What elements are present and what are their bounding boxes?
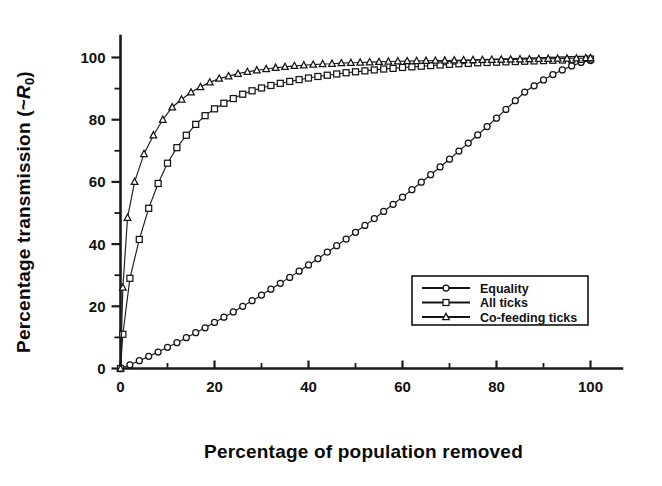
data-point-circle-marker bbox=[569, 63, 575, 69]
data-point-triangle-marker bbox=[329, 60, 336, 66]
data-point-circle-marker bbox=[400, 194, 406, 200]
data-point-circle-marker bbox=[353, 229, 359, 235]
data-point-triangle-marker bbox=[404, 57, 411, 63]
legend-label: Co-feeding ticks bbox=[480, 311, 577, 325]
data-point-triangle-marker bbox=[169, 104, 176, 110]
data-point-circle-marker bbox=[155, 349, 161, 355]
data-point-circle-marker bbox=[465, 140, 471, 146]
x-tick-label: 0 bbox=[116, 378, 124, 395]
data-point-triangle-marker bbox=[413, 57, 420, 63]
data-point-circle-marker bbox=[484, 124, 490, 130]
data-point-triangle-marker bbox=[587, 54, 594, 60]
y-tick-label: 80 bbox=[89, 111, 106, 128]
data-point-circle-marker bbox=[343, 236, 349, 242]
data-point-triangle-marker bbox=[124, 214, 131, 220]
data-point-triangle-marker bbox=[347, 59, 354, 65]
data-point-triangle-marker bbox=[263, 65, 270, 71]
data-point-triangle-marker bbox=[479, 56, 486, 62]
data-point-circle-marker bbox=[136, 358, 142, 364]
x-tick-label: 20 bbox=[206, 378, 223, 395]
data-point-square-marker bbox=[334, 71, 340, 77]
data-point-square-marker bbox=[136, 236, 142, 242]
data-point-circle-marker bbox=[127, 362, 133, 368]
data-point-square-marker bbox=[240, 91, 246, 97]
data-point-triangle-marker bbox=[535, 55, 542, 61]
y-tick-label: 60 bbox=[89, 173, 106, 190]
data-point-square-marker bbox=[306, 75, 312, 81]
x-tick-label: 80 bbox=[488, 378, 505, 395]
data-point-circle-marker bbox=[268, 286, 274, 292]
data-point-square-marker bbox=[268, 82, 274, 88]
data-point-triangle-marker bbox=[366, 59, 373, 65]
data-point-triangle-marker bbox=[573, 55, 580, 61]
data-point-square-marker bbox=[315, 73, 321, 79]
data-point-circle-marker bbox=[531, 83, 537, 89]
data-point-triangle-marker bbox=[357, 59, 364, 65]
data-point-triangle-marker bbox=[300, 62, 307, 68]
data-point-triangle-marker bbox=[376, 58, 383, 64]
data-point-circle-marker bbox=[230, 309, 236, 315]
data-point-triangle-marker bbox=[338, 59, 345, 65]
data-point-triangle-marker bbox=[253, 67, 260, 73]
data-point-circle-marker bbox=[249, 298, 255, 304]
data-point-triangle-marker bbox=[206, 79, 213, 85]
data-point-triangle-marker bbox=[291, 62, 298, 68]
data-point-triangle-marker bbox=[460, 57, 467, 63]
data-point-triangle-marker bbox=[178, 96, 185, 102]
data-point-triangle-marker bbox=[150, 132, 157, 138]
transmission-line-chart: 020406080100020406080100 EqualityAll tic… bbox=[0, 0, 662, 486]
y-axis-title: Percentage transmission (~R0) bbox=[13, 71, 37, 353]
data-point-circle-marker bbox=[221, 314, 227, 320]
data-point-square-marker bbox=[165, 160, 171, 166]
data-point-circle-marker bbox=[475, 132, 481, 138]
data-point-square-marker bbox=[296, 77, 302, 83]
data-point-triangle-marker bbox=[188, 89, 195, 95]
data-point-square-marker bbox=[277, 80, 283, 86]
data-point-circle-marker bbox=[409, 187, 415, 193]
data-point-triangle-marker bbox=[517, 56, 524, 62]
data-point-triangle-marker bbox=[526, 55, 533, 61]
data-point-square-marker bbox=[120, 331, 126, 337]
data-point-circle-marker bbox=[287, 274, 293, 280]
y-tick-label: 100 bbox=[80, 49, 105, 66]
data-point-circle-marker bbox=[277, 280, 283, 286]
data-point-circle-marker bbox=[174, 340, 180, 346]
data-point-circle-marker bbox=[541, 77, 547, 83]
data-point-square-marker bbox=[259, 85, 265, 91]
x-tick-label: 40 bbox=[300, 378, 317, 395]
data-point-square-marker bbox=[400, 64, 406, 70]
data-point-square-marker bbox=[155, 180, 161, 186]
data-point-circle-marker bbox=[315, 256, 321, 262]
data-point-square-marker bbox=[343, 70, 349, 76]
data-point-triangle-marker bbox=[197, 83, 204, 89]
data-point-triangle-marker bbox=[282, 63, 289, 69]
data-point-triangle-marker bbox=[432, 57, 439, 63]
data-point-circle-marker bbox=[550, 72, 556, 78]
data-point-circle-marker bbox=[381, 208, 387, 214]
data-point-square-marker bbox=[193, 121, 199, 127]
data-point-circle-marker bbox=[362, 222, 368, 228]
legend-label: Equality bbox=[480, 282, 529, 296]
data-point-square-marker bbox=[287, 78, 293, 84]
data-point-triangle-marker bbox=[235, 70, 242, 76]
data-point-circle-marker bbox=[165, 344, 171, 350]
data-point-circle-marker bbox=[494, 115, 500, 121]
axes: 020406080100020406080100 bbox=[80, 36, 622, 395]
data-point-circle-marker bbox=[390, 201, 396, 207]
data-point-square-marker bbox=[362, 68, 368, 74]
data-point-circle-marker bbox=[240, 303, 246, 309]
data-point-square-marker bbox=[174, 145, 180, 151]
data-point-circle-marker bbox=[503, 106, 509, 112]
data-point-circle-marker bbox=[371, 216, 377, 222]
data-point-triangle-marker bbox=[310, 61, 317, 67]
data-point-triangle-marker bbox=[141, 150, 148, 156]
data-point-triangle-marker bbox=[470, 56, 477, 62]
data-point-circle-marker bbox=[522, 89, 528, 95]
data-point-square-marker bbox=[202, 113, 208, 119]
data-point-circle-marker bbox=[296, 268, 302, 274]
data-point-circle-marker bbox=[428, 172, 434, 178]
data-point-square-marker bbox=[183, 132, 189, 138]
data-point-triangle-marker bbox=[319, 60, 326, 66]
data-point-square-marker bbox=[127, 275, 133, 281]
data-point-square-marker bbox=[212, 106, 218, 112]
